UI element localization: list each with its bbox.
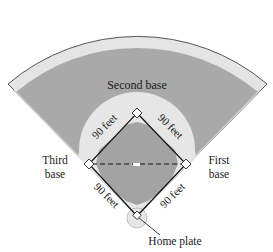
pitchers-rubber <box>133 163 140 166</box>
second-base-label: Second base <box>107 78 167 92</box>
third-base-label-line1: Third <box>42 154 68 166</box>
home-plate-label: Home plate <box>148 235 201 248</box>
third-base-label-line2: base <box>45 168 65 180</box>
first-base-label-line2: base <box>209 168 229 180</box>
baseball-field-diagram: Second base Third base First base Home p… <box>0 0 273 252</box>
first-base-label-line1: First <box>208 154 230 166</box>
